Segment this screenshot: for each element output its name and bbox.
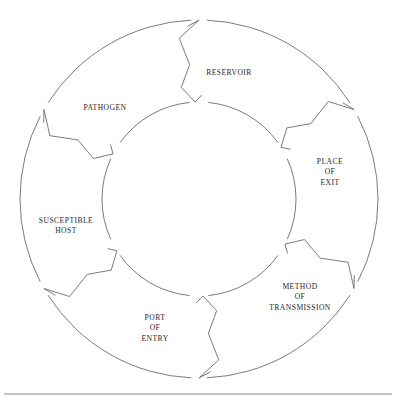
- segment-label-place-of-exit: PLACEOFEXIT: [317, 156, 343, 186]
- segment-label-line: OF: [325, 167, 336, 176]
- segment-label-reservoir: RESERVOIR: [206, 68, 252, 77]
- segment-label-line: OF: [295, 292, 306, 301]
- segment-label-pathogen: PATHOGEN: [84, 103, 127, 112]
- outer-arc-susceptible-host: [20, 116, 40, 281]
- ring-arc-group: [20, 20, 378, 378]
- outer-arc-place-of-exit: [358, 116, 378, 281]
- segment-label-line: OF: [150, 323, 161, 332]
- arrow-divider-arrow-upper-left: [44, 110, 113, 159]
- segment-label-method-of-transmission: METHODOFTRANSMISSION: [269, 281, 331, 311]
- segment-label-susceptible-host: SUSCEPTIBLEHOST: [39, 216, 93, 236]
- arrow-divider-arrow-top: [179, 20, 201, 102]
- segment-label-line: RESERVOIR: [206, 68, 252, 77]
- inner-arc-port-of-entry: [120, 255, 190, 295]
- inner-arc-reservoir: [208, 102, 278, 142]
- arrow-divider-arrow-lower-left: [44, 249, 117, 297]
- segment-label-line: SUSCEPTIBLE: [39, 216, 93, 225]
- segment-label-line: METHOD: [282, 281, 317, 290]
- outer-arc-reservoir: [207, 20, 350, 103]
- inner-arc-method-of-transmission: [208, 255, 278, 295]
- arrow-divider-arrow-upper-right: [281, 102, 354, 150]
- arrow-divider-arrow-bottom: [196, 296, 218, 378]
- segment-label-group: RESERVOIRPLACEOFEXITMETHODOFTRANSMISSION…: [39, 68, 343, 343]
- segment-label-line: HOST: [55, 226, 77, 235]
- inner-arc-susceptible-host: [102, 159, 111, 239]
- cycle-diagram-canvas: RESERVOIRPLACEOFEXITMETHODOFTRANSMISSION…: [0, 0, 396, 407]
- inner-arc-place-of-exit: [287, 159, 296, 239]
- segment-label-line: PLACE: [317, 156, 343, 165]
- outer-arc-pathogen: [48, 20, 191, 103]
- segment-label-line: EXIT: [320, 177, 339, 186]
- inner-arc-pathogen: [120, 102, 190, 142]
- segment-label-line: TRANSMISSION: [269, 302, 331, 311]
- segment-label-line: PORT: [145, 312, 166, 321]
- segment-label-port-of-entry: PORTOFENTRY: [141, 312, 168, 342]
- chain-of-infection-diagram: RESERVOIRPLACEOFEXITMETHODOFTRANSMISSION…: [0, 0, 396, 407]
- outer-arc-port-of-entry: [48, 295, 191, 378]
- segment-label-line: ENTRY: [141, 333, 168, 342]
- arrow-divider-group: [44, 20, 355, 378]
- segment-label-line: PATHOGEN: [84, 103, 127, 112]
